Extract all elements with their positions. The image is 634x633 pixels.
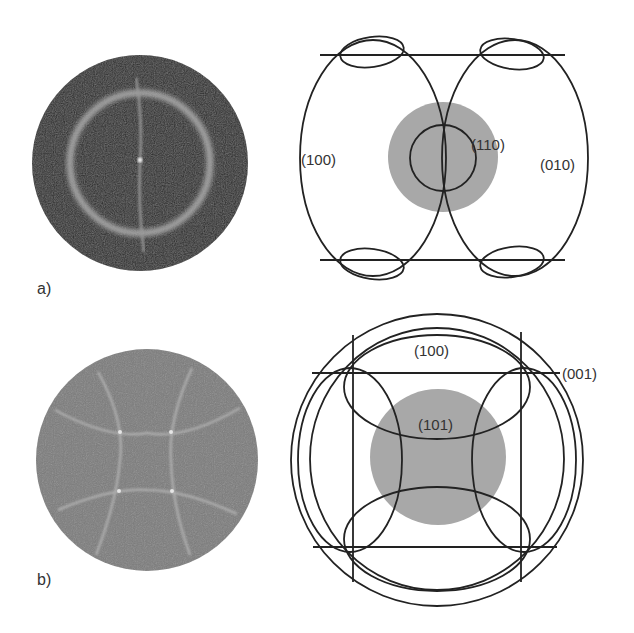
panel-a-label: a) xyxy=(37,280,51,297)
label-100-b: (100) xyxy=(414,342,449,359)
gray-disc xyxy=(370,389,506,525)
label-001: (001) xyxy=(562,365,597,382)
label-100: (100) xyxy=(301,151,336,168)
label-101: (101) xyxy=(418,416,453,433)
label-010: (010) xyxy=(540,156,575,173)
figure-canvas: a) (100) (110) (010) b) xyxy=(0,0,634,633)
panel-a-diffraction-pattern xyxy=(32,55,248,271)
panel-b-diffraction-pattern xyxy=(36,349,258,571)
panel-b-label: b) xyxy=(37,571,51,588)
label-110: (110) xyxy=(471,136,505,153)
